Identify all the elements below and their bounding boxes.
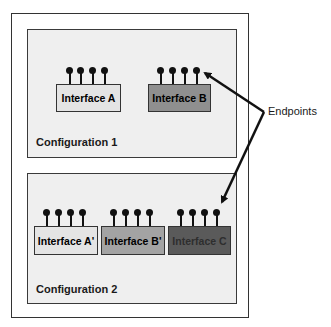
endpoint-icon bbox=[55, 209, 62, 216]
endpoints-label: Endpoints bbox=[268, 105, 317, 117]
endpoint-icon bbox=[43, 209, 50, 216]
endpoint-icon bbox=[122, 209, 129, 216]
interface-b-prime: Interface B' bbox=[101, 226, 165, 255]
interface-a-label: Interface A bbox=[62, 92, 116, 104]
endpoint-icon bbox=[66, 67, 73, 74]
endpoint-icon bbox=[79, 209, 86, 216]
endpoint-icon bbox=[213, 209, 220, 216]
interface-c: Interface C bbox=[168, 226, 231, 255]
endpoint-icon bbox=[146, 209, 153, 216]
interface-c-label: Interface C bbox=[172, 235, 226, 247]
interface-b-label: Interface B bbox=[152, 92, 206, 104]
interface-a: Interface A bbox=[56, 84, 121, 112]
endpoint-icon bbox=[157, 67, 164, 74]
interface-a-prime: Interface A' bbox=[34, 226, 98, 255]
endpoint-icon bbox=[177, 209, 184, 216]
configuration-2-label: Configuration 2 bbox=[36, 283, 117, 295]
endpoint-icon bbox=[110, 209, 117, 216]
endpoint-icon bbox=[67, 209, 74, 216]
endpoint-icon bbox=[77, 67, 84, 74]
interface-b: Interface B bbox=[148, 84, 211, 112]
endpoint-icon bbox=[181, 67, 188, 74]
endpoint-icon bbox=[193, 67, 200, 74]
configuration-1-label: Configuration 1 bbox=[36, 136, 117, 148]
endpoint-icon bbox=[201, 209, 208, 216]
endpoint-icon bbox=[89, 67, 96, 74]
endpoint-icon bbox=[134, 209, 141, 216]
endpoint-icon bbox=[101, 67, 108, 74]
endpoint-icon bbox=[169, 67, 176, 74]
endpoint-icon bbox=[189, 209, 196, 216]
interface-b-prime-label: Interface B' bbox=[105, 235, 162, 247]
interface-a-prime-label: Interface A' bbox=[38, 235, 94, 247]
